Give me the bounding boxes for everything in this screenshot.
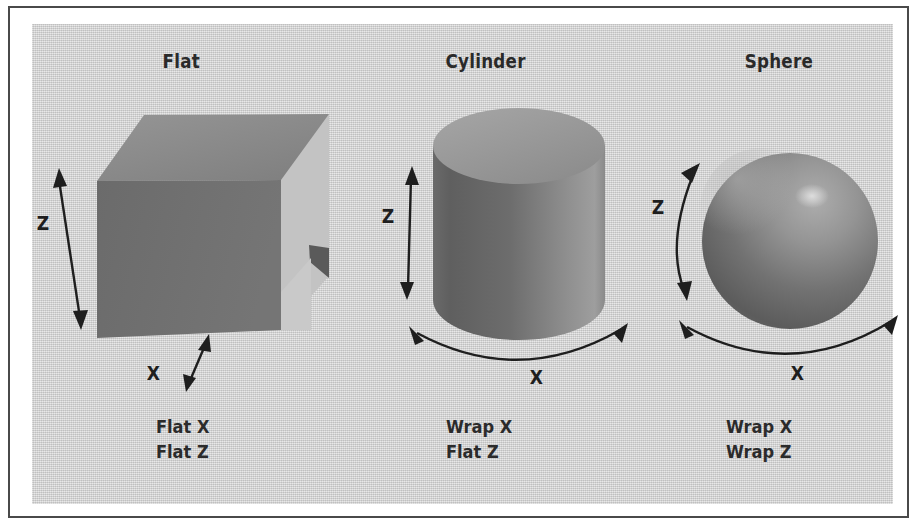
panel-title-cylinder: Cylinder [445,50,525,72]
caption-flat-line2: Flat Z [156,439,209,464]
sphere-z-axis-label: Z [652,196,664,218]
caption-sphere-line1: Wrap X [726,414,792,439]
panel-title-flat: Flat [163,50,200,72]
panel-title-sphere: Sphere [745,50,813,72]
caption-flat: Flat X Flat Z [156,414,209,464]
flat-x-axis-label: X [147,362,160,384]
caption-cylinder: Wrap X Flat Z [446,414,512,464]
sphere-x-axis-label: X [791,362,804,384]
cylinder-z-axis-label: Z [382,205,394,227]
flat-z-axis-label: Z [37,212,49,234]
caption-flat-line1: Flat X [156,414,209,439]
caption-sphere-line2: Wrap Z [726,439,792,464]
cylinder-x-axis-label: X [530,366,543,388]
caption-cylinder-line1: Wrap X [446,414,512,439]
caption-cylinder-line2: Flat Z [446,439,512,464]
caption-sphere: Wrap X Wrap Z [726,414,792,464]
